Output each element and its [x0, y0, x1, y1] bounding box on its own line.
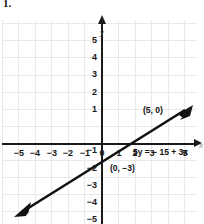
plotted-line — [0, 0, 204, 224]
equation-label: 5y = − 15 + 3x — [133, 147, 188, 157]
line-segment — [22, 110, 185, 212]
graph-screenshot: 1. y x −5 −4 −3 — [0, 0, 204, 224]
point-label-x-intercept: (5, 0) — [143, 105, 163, 115]
point-label-y-intercept: (0, −3) — [110, 163, 135, 173]
